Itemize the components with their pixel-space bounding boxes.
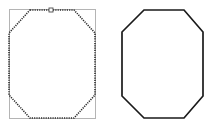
solid-octagon-shape[interactable]: [122, 10, 203, 118]
left-shape-panel[interactable]: [0, 0, 108, 128]
right-shape-panel[interactable]: [108, 0, 216, 128]
selection-bounding-box[interactable]: [10, 10, 96, 119]
right-octagon-svg[interactable]: [108, 0, 216, 128]
drawing-canvas[interactable]: [0, 0, 216, 128]
top-edge-handle[interactable]: [49, 8, 53, 12]
left-octagon-svg[interactable]: [0, 0, 108, 128]
dotted-octagon-shape[interactable]: [9, 10, 95, 118]
